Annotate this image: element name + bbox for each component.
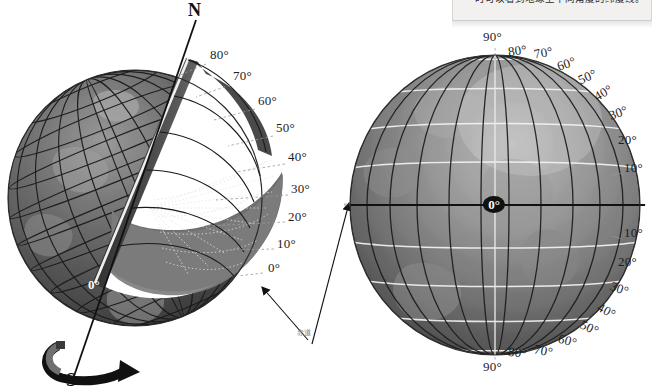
left-globe-graphic xyxy=(0,0,652,386)
left-lat-label-50: 50° xyxy=(276,120,295,136)
right-lat-label-n70: 70° xyxy=(533,43,554,62)
caption-shadow xyxy=(452,21,652,28)
right-lat-label-n80: 80° xyxy=(507,42,528,60)
right-lat-label-s80: 80° xyxy=(507,344,528,362)
left-lat-label-20: 20° xyxy=(288,209,307,225)
right-lat-label-n10: 10° xyxy=(624,160,643,176)
right-lat-label-s10: 10° xyxy=(624,225,643,241)
right-lat-label-s70: 70° xyxy=(533,341,554,360)
figure-canvas: 时可以看到地球上不同角度的纬度线。 N S 0° 赤道 80° 70° 60° … xyxy=(0,0,652,386)
south-pole-label: S xyxy=(66,370,76,386)
right-lat-label-n90: 90° xyxy=(483,29,502,45)
left-lat-label-0: 0° xyxy=(268,260,280,276)
left-lat-label-70: 70° xyxy=(233,68,252,84)
right-lat-label-s20: 20° xyxy=(618,254,637,270)
left-lat-label-40: 40° xyxy=(288,149,307,165)
right-lat-label-n20: 20° xyxy=(618,132,637,148)
right-globe-equator-label: 0° xyxy=(483,196,505,213)
left-globe-zero-label: 0° xyxy=(88,277,100,293)
right-lat-label-s90: 90° xyxy=(483,359,502,375)
left-lat-label-10: 10° xyxy=(277,236,296,252)
left-lat-label-60: 60° xyxy=(258,93,277,109)
rotation-arrow xyxy=(46,341,140,382)
caption-box: 时可以看到地球上不同角度的纬度线。 xyxy=(452,0,652,21)
caption-text: 时可以看到地球上不同角度的纬度线。 xyxy=(475,0,651,5)
equator-cn-label: 赤道 xyxy=(297,327,311,337)
left-lat-label-80: 80° xyxy=(210,47,229,63)
left-lat-label-30: 30° xyxy=(291,181,310,197)
north-pole-label: N xyxy=(188,0,201,21)
